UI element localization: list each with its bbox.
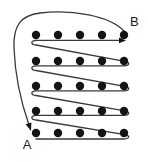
grid-node-dot — [120, 31, 128, 39]
grid-node-dot — [76, 57, 84, 65]
grid-node-dot — [32, 107, 40, 115]
grid-node-dot — [32, 31, 40, 39]
grid-node-dot — [32, 57, 40, 65]
grid-node-dot — [98, 129, 106, 137]
endpoint-label-a: A — [23, 137, 32, 152]
grid-node-dot — [32, 129, 40, 137]
grid-node-dot — [76, 129, 84, 137]
return-path-arrowhead — [26, 122, 32, 131]
grid-node-dot — [98, 31, 106, 39]
grid-node-dot — [54, 31, 62, 39]
grid-node-dot — [120, 82, 128, 90]
diagram-canvas: B A — [0, 0, 148, 162]
return-path-group — [14, 12, 124, 131]
grid-node-dot — [76, 107, 84, 115]
grid-node-dot — [120, 57, 128, 65]
endpoint-label-b: B — [130, 14, 139, 29]
grid-node-dot — [76, 82, 84, 90]
grid-node-dot — [54, 57, 62, 65]
grid-node-dot — [98, 57, 106, 65]
grid-node-dot — [120, 129, 128, 137]
grid-node-dot — [120, 107, 128, 115]
grid-node-dot — [98, 107, 106, 115]
grid-node-dot — [76, 31, 84, 39]
grid-node-dot — [98, 82, 106, 90]
grid-node-dot — [54, 107, 62, 115]
grid-node-dot — [54, 129, 62, 137]
grid-node-dot — [54, 82, 62, 90]
grid-node-dot — [32, 82, 40, 90]
boustrophedon-path-diagram: B A — [0, 0, 148, 162]
